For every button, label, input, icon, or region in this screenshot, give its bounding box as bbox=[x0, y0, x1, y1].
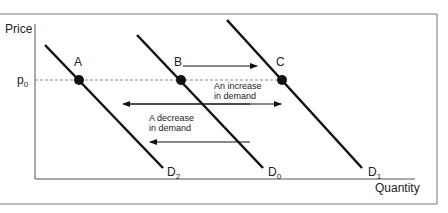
demand-curve-d2 bbox=[45, 45, 163, 168]
decrease-annotation-line1: A decrease bbox=[149, 113, 194, 123]
point-c bbox=[277, 75, 287, 85]
demand-shift-diagram: Price Quantity p0 A B C D2 D0 D1 An incr… bbox=[0, 0, 448, 213]
demand-curve-d0 bbox=[137, 35, 263, 168]
point-b-label: B bbox=[174, 55, 182, 69]
point-a-label: A bbox=[74, 55, 82, 69]
point-c-label: C bbox=[276, 55, 285, 69]
point-a bbox=[74, 75, 84, 85]
increase-annotation-line1: An increase bbox=[214, 81, 262, 91]
x-axis-label: Quantity bbox=[375, 181, 420, 195]
price-level-label: p0 bbox=[17, 73, 29, 89]
curve-d2-label: D2 bbox=[167, 165, 181, 181]
point-b bbox=[176, 75, 186, 85]
y-axis-label: Price bbox=[5, 22, 33, 36]
curve-d1-label: D1 bbox=[368, 165, 382, 181]
increase-annotation-line2: in demand bbox=[214, 91, 256, 101]
decrease-annotation-line2: in demand bbox=[149, 123, 191, 133]
curve-d0-label: D0 bbox=[268, 165, 282, 181]
